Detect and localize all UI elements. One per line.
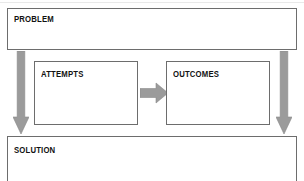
- attempts-label: ATTEMPTS: [41, 69, 84, 79]
- arrow-down-right-icon: [276, 51, 292, 134]
- outcomes-label: OUTCOMES: [173, 69, 219, 79]
- solution-label: SOLUTION: [14, 145, 55, 155]
- arrow-down-left-icon: [13, 51, 29, 134]
- page-top-rule: [0, 2, 304, 3]
- problem-label: PROBLEM: [14, 14, 54, 24]
- arrow-right-icon: [140, 82, 168, 104]
- problem-solution-diagram: PROBLEM ATTEMPTS OUTCOMES SOLUTION: [0, 0, 304, 181]
- solution-box: [7, 136, 297, 181]
